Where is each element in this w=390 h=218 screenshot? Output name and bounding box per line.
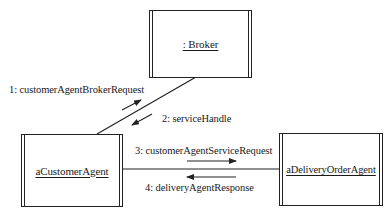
object-delivery-order-agent: aDeliveryOrderAgent: [279, 133, 383, 206]
message-3-label: 3: customerAgentServiceRequest: [135, 145, 272, 156]
message-2-label: 2: serviceHandle: [162, 113, 231, 124]
communication-diagram: : Broker aCustomerAgent aDeliveryOrderAg…: [0, 0, 390, 218]
object-customer-agent: aCustomerAgent: [21, 134, 123, 207]
message-1-label: 1: customerAgentBrokerRequest: [9, 84, 144, 95]
object-broker: : Broker: [149, 10, 252, 78]
message-1-arrow-icon: [122, 100, 141, 110]
object-delivery-order-agent-label: aDeliveryOrderAgent: [286, 164, 376, 175]
message-4-label: 4: deliveryAgentResponse: [145, 182, 254, 193]
message-2-arrow-icon: [132, 114, 152, 125]
object-customer-agent-label: aCustomerAgent: [35, 165, 108, 177]
object-broker-label: : Broker: [183, 38, 219, 50]
